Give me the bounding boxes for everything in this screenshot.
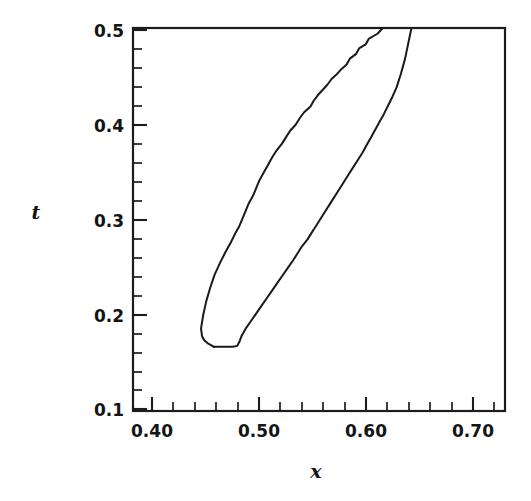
contour-plot-figure: 0.5 0.4 0.3 0.2 0.1 0.40 0.50 0.60 0.70 … bbox=[0, 0, 531, 501]
x-tick-label: 0.70 bbox=[452, 421, 494, 441]
x-axis-label: x bbox=[309, 460, 322, 482]
x-tick-label: 0.50 bbox=[238, 421, 280, 441]
y-tick-label: 0.3 bbox=[94, 211, 124, 231]
x-tick-label: 0.60 bbox=[345, 421, 387, 441]
y-tick-label: 0.2 bbox=[94, 306, 124, 326]
y-axis-label: t bbox=[32, 201, 41, 223]
y-tick-label: 0.5 bbox=[94, 21, 124, 41]
y-tick-label: 0.4 bbox=[94, 116, 124, 136]
y-tick-label: 0.1 bbox=[94, 400, 124, 420]
x-tick-label: 0.40 bbox=[131, 421, 173, 441]
